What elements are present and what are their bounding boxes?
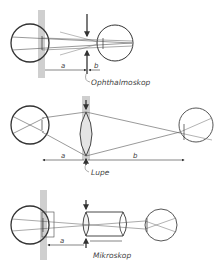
panel-mikroskop: a Mikroskop <box>11 190 177 260</box>
gray-band <box>38 10 45 78</box>
objective-lens <box>83 212 89 236</box>
lens <box>80 112 92 156</box>
dimension-b: b <box>94 62 99 70</box>
panel-lupe: a b Lupe <box>11 96 213 177</box>
caption-ophthalmoskop: Ophthalmoskop <box>91 78 151 87</box>
gray-band <box>40 190 47 260</box>
dimension-b: b <box>133 152 138 160</box>
caption-mikroskop: Mikroskop <box>93 251 131 260</box>
dimension-a: a <box>60 237 64 245</box>
optics-diagram: a b Ophthalmoskop a b Lupe <box>0 0 221 269</box>
observer-eye <box>145 209 177 241</box>
caption-lupe: Lupe <box>91 168 110 177</box>
dimension-a: a <box>61 152 65 160</box>
panel-ophthalmoskop: a b Ophthalmoskop <box>11 10 151 87</box>
dimension-a: a <box>61 62 65 70</box>
